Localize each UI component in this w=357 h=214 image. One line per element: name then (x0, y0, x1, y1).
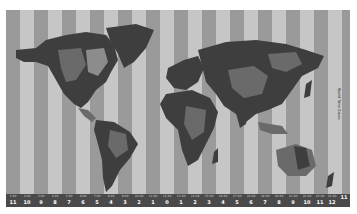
zone-cell: 16:004 (216, 194, 230, 207)
europe (166, 56, 204, 90)
zone-offset: 3 (202, 199, 216, 206)
map-title: World Time Zones (337, 88, 341, 120)
continents (6, 10, 350, 194)
world-time-zone-map: World Time Zones (6, 10, 350, 194)
zone-cell: 20:008 (272, 194, 286, 207)
zone-offset: 0 (160, 199, 174, 206)
zone-offset: 7 (258, 199, 272, 206)
zone-cell: 1:0011 (6, 194, 20, 207)
zone-cell: 23:0011 (314, 194, 326, 207)
zone-cell: 18:006 (244, 194, 258, 207)
zone-cell: 4:008 (48, 194, 62, 207)
zone-cell: 15:003 (202, 194, 216, 207)
zone-cell: 7:005 (90, 194, 104, 207)
zone-cell: 19:007 (258, 194, 272, 207)
zone-offset: 11 (314, 199, 326, 206)
zone-cell: 3:009 (34, 194, 48, 207)
zone-cell: 2:0010 (20, 194, 34, 207)
zone-cell: 12:000 (160, 194, 174, 207)
zone-cell: 17:005 (230, 194, 244, 207)
zone-cell: 11:001 (146, 194, 160, 207)
zone-offset: 4 (216, 199, 230, 206)
zone-offset: 5 (230, 199, 244, 206)
zone-offset: 9 (34, 199, 48, 206)
zone-offset: 2 (132, 199, 146, 206)
zone-cell: 5:007 (62, 194, 76, 207)
zone-offset: 3 (118, 199, 132, 206)
zone-cell: 13:001 (174, 194, 188, 207)
zone-offset: 9 (286, 199, 300, 206)
zone-offset: 12 (326, 199, 338, 206)
zone-offset: 8 (48, 199, 62, 206)
zone-offset: 8 (272, 199, 286, 206)
zone-cell: 24:0012 (326, 194, 338, 207)
zone-cell: 6:006 (76, 194, 90, 207)
zone-offset: 5 (90, 199, 104, 206)
zone-cell: 22:0010 (300, 194, 314, 207)
zone-cell: 10:002 (132, 194, 146, 207)
zone-offset: 10 (300, 199, 314, 206)
zone-offset: 1 (146, 199, 160, 206)
zone-offset: 11 (338, 194, 350, 201)
zone-cell: 14:002 (188, 194, 202, 207)
zone-cell: 9:003 (118, 194, 132, 207)
map-legend: World Time Zones (335, 88, 341, 128)
zone-cell: 8:004 (104, 194, 118, 207)
zone-offset: 2 (188, 199, 202, 206)
zone-offset: 6 (244, 199, 258, 206)
time-zone-bar: 1:0011 2:0010 3:009 4:008 5:007 6:006 7:… (6, 194, 350, 207)
zone-offset: 10 (20, 199, 34, 206)
zone-cell: 21:009 (286, 194, 300, 207)
zone-offset: 11 (6, 199, 20, 206)
zone-offset: 7 (62, 199, 76, 206)
zone-offset: 4 (104, 199, 118, 206)
zone-cell: 11 (338, 194, 350, 207)
zone-offset: 6 (76, 199, 90, 206)
zone-offset: 1 (174, 199, 188, 206)
